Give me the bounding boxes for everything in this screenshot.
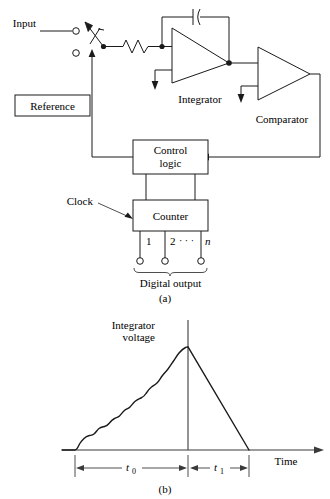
x-axis-label: Time — [275, 455, 298, 467]
input-resistor — [120, 40, 152, 53]
reference-label: Reference — [30, 100, 75, 112]
output-bit-ellipsis: · · · — [179, 235, 194, 246]
digital-output-label: Digital output — [140, 277, 201, 289]
control-logic-label-line1: Control — [154, 144, 188, 156]
clock-pointer-line — [98, 203, 127, 216]
integrator-label: Integrator — [178, 93, 222, 105]
spdt-switch[interactable] — [85, 22, 106, 49]
y-axis-label-line1: Integrator — [112, 319, 156, 331]
integrator-voltage-waveform — [62, 347, 249, 450]
capacitor-plate-curved — [198, 9, 200, 25]
dimension-t1: t 1 — [190, 455, 249, 477]
t0-arrowhead-right — [179, 465, 187, 471]
dimension-t0: t 0 — [75, 455, 188, 477]
input-label: Input — [13, 17, 36, 29]
figure-svg: Input Reference — [0, 0, 330, 499]
panel-b-waveform-chart: Integrator voltage Time t 0 t — [62, 319, 324, 496]
panel-a-caption: (a) — [159, 292, 172, 305]
reference-feedback-arrowhead — [89, 49, 96, 57]
clock-pointer-arrowhead — [125, 213, 134, 219]
panel-b-caption: (b) — [159, 483, 172, 496]
input-terminal — [73, 28, 80, 35]
t0-arrowhead-left — [76, 465, 84, 471]
y-axis-label-line2: voltage — [123, 331, 155, 343]
t1-arrowhead-right — [240, 465, 248, 471]
clock-label: Clock — [67, 195, 94, 207]
time-axis-arrowhead — [314, 447, 324, 454]
comparator-opamp — [258, 47, 310, 100]
digital-output-brace — [134, 268, 207, 276]
panel-a-block-diagram: Input Reference — [13, 9, 320, 305]
integrator-opamp — [172, 28, 229, 83]
output-terminal-1 — [137, 258, 144, 265]
t1-arrowhead-left — [190, 465, 198, 471]
control-logic-label-line2: logic — [160, 157, 182, 169]
output-bit-label-2: 2 — [170, 235, 176, 247]
comparator-label: Comparator — [256, 113, 309, 125]
reference-terminal — [73, 50, 80, 57]
t0-label-subscript: 0 — [132, 467, 136, 476]
output-terminal-2 — [162, 258, 169, 265]
comparator-ground-arrowhead — [238, 94, 245, 103]
output-terminal-n — [198, 258, 205, 265]
t1-label-subscript: 1 — [220, 467, 224, 476]
figure-container: Input Reference — [0, 0, 330, 499]
counter-label: Counter — [153, 210, 189, 222]
integrator-ground-arrowhead — [152, 81, 159, 90]
output-bit-label-n: n — [205, 235, 211, 247]
output-bit-label-1: 1 — [146, 235, 152, 247]
